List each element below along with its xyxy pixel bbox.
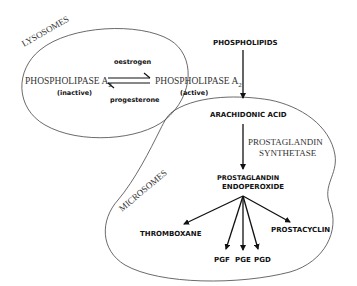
oestrogen-label: oestrogen bbox=[114, 58, 152, 66]
endoperoxide-label-line1: PROSTAGLANDIN bbox=[217, 174, 279, 182]
synthetase-label-line2: SYNTHETASE bbox=[259, 148, 317, 158]
prostacyclin-label: PROSTACYCLIN bbox=[271, 226, 330, 234]
active-state-label: (active) bbox=[180, 89, 208, 97]
branch-arrows bbox=[184, 196, 290, 250]
pgd-label: PGD bbox=[254, 256, 271, 264]
pge-label: PGE bbox=[235, 256, 251, 264]
pla2-active-label: PHOSPHOLIPASE A2 bbox=[155, 76, 242, 89]
node-pla2-active: PHOSPHOLIPASE A2 (active) bbox=[155, 76, 242, 97]
lysosomes-label: LYSOSOMES bbox=[20, 14, 71, 49]
progesterone-label: progesterone bbox=[110, 96, 160, 104]
synthetase-label-line1: PROSTAGLANDIN bbox=[248, 137, 323, 147]
phospholipids-label: PHOSPHOLIPIDS bbox=[213, 39, 278, 47]
inactive-state-label: (inactive) bbox=[57, 89, 92, 97]
pgf-label: PGF bbox=[214, 256, 230, 264]
microsomes-label: MICROSOMES bbox=[117, 168, 169, 214]
pla2-inactive-label: PHOSPHOLIPASE A2 bbox=[25, 76, 112, 89]
endoperoxide-label-line2: ENDOPEROXIDE bbox=[222, 183, 284, 191]
thromboxane-label: THROMBOXANE bbox=[140, 230, 202, 238]
equilibrium-arrows bbox=[108, 73, 150, 88]
prostaglandin-pathway-diagram: LYSOSOMES MICROSOMES PHOSPHOLIPASE A2 (i… bbox=[0, 0, 357, 286]
node-pla2-inactive: PHOSPHOLIPASE A2 (inactive) bbox=[25, 76, 112, 97]
arachidonic-acid-label: ARACHIDONIC ACID bbox=[210, 111, 287, 119]
